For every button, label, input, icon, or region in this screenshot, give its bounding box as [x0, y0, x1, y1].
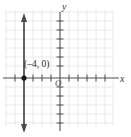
y-axis [57, 12, 64, 131]
point-coordinate-label: (–4, 0) [24, 60, 49, 70]
graph-line-x-equals-negative-4 [21, 13, 27, 133]
origin-label: O [55, 79, 62, 88]
graph-canvas [0, 0, 131, 137]
grid-lines [5, 10, 113, 126]
point-marker [21, 75, 26, 80]
x-axis-label: x [120, 74, 124, 84]
coordinate-plane-figure: y x O (–4, 0) [0, 0, 131, 137]
y-axis-label: y [62, 2, 66, 12]
